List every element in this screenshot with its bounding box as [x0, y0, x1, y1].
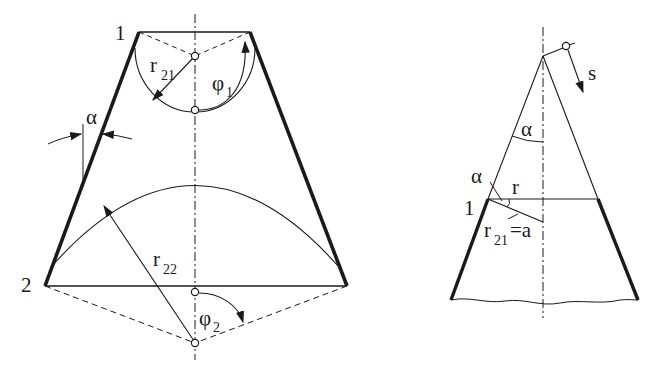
alpha-arc-right [103, 134, 132, 139]
hinge-point [562, 42, 569, 49]
small-point-phi1 [191, 106, 198, 113]
label-r21: r [150, 53, 157, 77]
left-slant-edge [45, 32, 139, 286]
alpha-leader-line [490, 182, 502, 201]
label-phi2-sub: 2 [213, 320, 220, 335]
cone-development-diagram: 1 2 α r 21 φ 1 r 22 φ 2 [0, 0, 662, 379]
frustum-right-edge [598, 199, 638, 300]
label-phi1: φ [212, 71, 224, 95]
angle-arc-point1 [507, 199, 510, 207]
label-r: r [512, 175, 519, 199]
label-alpha-left: α [86, 105, 97, 129]
label-point-1: 1 [115, 21, 126, 45]
right-slant-edge [250, 32, 347, 286]
alpha-arc-left [48, 134, 81, 144]
label-point-2: 2 [21, 273, 32, 297]
label-phi2: φ [199, 306, 211, 330]
dashed-radius-left-1 [139, 32, 195, 56]
apex-connector [543, 48, 563, 56]
dashed-radius-right-1 [195, 32, 250, 56]
dashed-radius-left-2 [45, 286, 195, 343]
wavy-break-line [451, 299, 638, 304]
label-r21-right-sub: 21 [494, 233, 508, 248]
label-s: s [588, 61, 596, 85]
label-alpha-apex: α [521, 117, 532, 141]
r22-arrow [104, 206, 194, 341]
label-phi1-sub: 1 [226, 85, 233, 100]
label-r22: r [153, 247, 160, 271]
label-alpha-edge: α [471, 164, 482, 188]
label-point-1-right: 1 [464, 196, 475, 220]
label-r21-right: r [484, 218, 491, 242]
center-point-1 [191, 52, 198, 59]
s-direction-arrow [568, 50, 583, 92]
label-r22-sub: 22 [163, 262, 177, 277]
center-point-2 [191, 339, 198, 346]
label-r21-sub: 21 [161, 68, 175, 83]
left-figure-flat-development [45, 14, 347, 360]
point-on-bottom-edge [191, 288, 198, 295]
label-r21-eq-a: =a [510, 218, 532, 242]
